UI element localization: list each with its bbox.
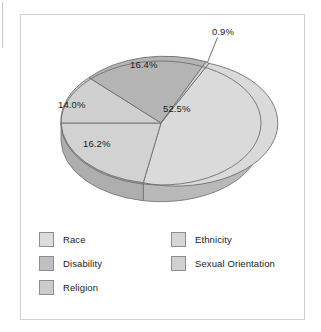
callout-leader-line <box>208 38 218 63</box>
legend-swatch-disability <box>39 256 54 271</box>
slice-label-disability: 16.4% <box>130 59 157 70</box>
scan-edge-artifact <box>2 2 3 48</box>
legend-item-sexual-orientation[interactable]: Sexual Orientation <box>171 251 275 275</box>
pie-slice-ethnicity <box>61 123 161 183</box>
legend-swatch-race <box>39 232 54 247</box>
legend-label-sexual-orientation: Sexual Orientation <box>195 258 275 269</box>
slice-label-religion: 14.0% <box>58 99 85 110</box>
chart-legend: Race Disability Religion Ethnicity Sexua… <box>21 227 306 319</box>
slice-label-race: 52.5% <box>163 103 190 114</box>
legend-item-ethnicity[interactable]: Ethnicity <box>171 227 275 251</box>
pie-chart: 0.9% 52.5% 16.2% 14.0% 16.4% <box>21 15 306 225</box>
legend-swatch-religion <box>39 280 54 295</box>
legend-swatch-ethnicity <box>171 232 186 247</box>
slice-label-ethnicity: 16.2% <box>83 138 110 149</box>
legend-label-ethnicity: Ethnicity <box>195 234 232 245</box>
slice-label-sexual-orientation: 0.9% <box>212 26 234 37</box>
legend-column-left: Race Disability Religion <box>39 227 102 299</box>
pie-chart-svg <box>21 15 306 225</box>
legend-column-right: Ethnicity Sexual Orientation <box>171 227 275 275</box>
legend-item-race[interactable]: Race <box>39 227 102 251</box>
legend-label-religion: Religion <box>63 282 98 293</box>
legend-label-disability: Disability <box>63 258 102 269</box>
chart-panel: 0.9% 52.5% 16.2% 14.0% 16.4% Race Disabi… <box>20 14 305 320</box>
legend-item-disability[interactable]: Disability <box>39 251 102 275</box>
legend-label-race: Race <box>63 234 86 245</box>
legend-swatch-sexual-orientation <box>171 256 186 271</box>
legend-item-religion[interactable]: Religion <box>39 275 102 299</box>
